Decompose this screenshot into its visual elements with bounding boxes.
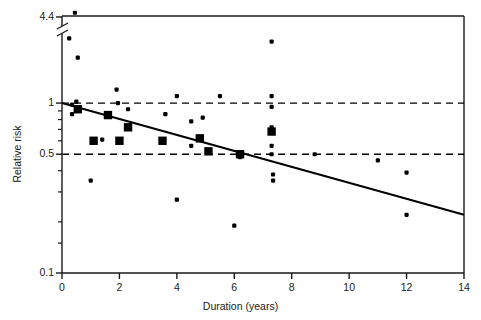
data-point-large-square bbox=[267, 127, 275, 135]
data-point-small bbox=[271, 172, 275, 176]
data-point-large-square bbox=[236, 150, 244, 158]
data-point-small bbox=[232, 224, 236, 228]
x-tick-label-0: 0 bbox=[42, 281, 82, 293]
data-point-small bbox=[270, 94, 274, 98]
data-point-small bbox=[163, 112, 167, 116]
data-point-small bbox=[376, 158, 380, 162]
data-point-small bbox=[126, 107, 130, 111]
data-point-small bbox=[271, 178, 275, 182]
data-point-large-square bbox=[74, 105, 82, 113]
x-tick-label-8: 8 bbox=[272, 281, 312, 293]
x-tick-label-10: 10 bbox=[329, 281, 369, 293]
x-tick-label-2: 2 bbox=[99, 281, 139, 293]
data-point-small bbox=[270, 152, 274, 156]
data-point-small bbox=[270, 105, 274, 109]
y-tick-label-4-4: 4.4 bbox=[14, 10, 54, 22]
data-point-small bbox=[404, 170, 408, 174]
data-point-small bbox=[114, 88, 118, 92]
data-point-large-square bbox=[89, 137, 97, 145]
data-point-small bbox=[70, 112, 74, 116]
data-point-small bbox=[74, 100, 78, 104]
regression-line bbox=[62, 103, 464, 215]
x-tick-label-12: 12 bbox=[387, 281, 427, 293]
data-point-small bbox=[189, 144, 193, 148]
data-point-small bbox=[270, 144, 274, 148]
data-point-large-square bbox=[204, 147, 212, 155]
data-point-small bbox=[218, 94, 222, 98]
data-point-small bbox=[73, 11, 77, 15]
data-point-large-square bbox=[196, 134, 204, 142]
data-point-large-square bbox=[115, 137, 123, 145]
data-point-small bbox=[116, 101, 120, 105]
data-point-small bbox=[70, 102, 74, 106]
x-tick-label-4: 4 bbox=[157, 281, 197, 293]
y-tick-label-0-5: 0.5 bbox=[14, 147, 54, 159]
x-axis-label: Duration (years) bbox=[0, 300, 481, 312]
data-point-small bbox=[175, 94, 179, 98]
y-tick-label-0-1: 0.1 bbox=[14, 266, 54, 278]
plot-canvas bbox=[0, 0, 481, 320]
data-point-large-square bbox=[124, 123, 132, 131]
data-point-small bbox=[67, 36, 71, 40]
x-tick-label-6: 6 bbox=[214, 281, 254, 293]
data-point-small bbox=[404, 213, 408, 217]
data-point-small bbox=[89, 178, 93, 182]
data-point-small bbox=[313, 152, 317, 156]
data-point-small bbox=[189, 119, 193, 123]
y-tick-label-1: 1 bbox=[14, 96, 54, 108]
data-point-small bbox=[270, 40, 274, 44]
data-point-small bbox=[100, 137, 104, 141]
data-point-large-square bbox=[158, 137, 166, 145]
data-point-large-square bbox=[104, 111, 112, 119]
data-point-small bbox=[175, 198, 179, 202]
data-point-small bbox=[76, 56, 80, 60]
data-point-small bbox=[201, 116, 205, 120]
scatter-plot-figure: Relative risk Duration (years) 4.410.50.… bbox=[0, 0, 481, 320]
x-tick-label-14: 14 bbox=[444, 281, 481, 293]
